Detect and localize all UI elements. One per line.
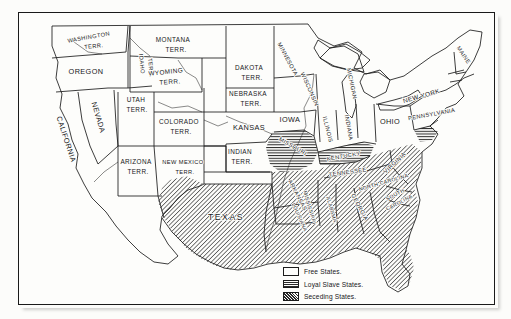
svg-text:MONTANA: MONTANA <box>156 36 191 43</box>
svg-text:ARIZONA: ARIZONA <box>120 158 152 165</box>
svg-text:OREGON: OREGON <box>69 67 104 76</box>
svg-text:TERR.: TERR. <box>175 169 194 175</box>
svg-text:DAKOTA: DAKOTA <box>235 64 264 71</box>
svg-text:TERR.: TERR. <box>231 158 252 165</box>
svg-text:TERR.: TERR. <box>241 74 262 81</box>
svg-text:IOWA: IOWA <box>280 115 301 124</box>
svg-text:TERR.: TERR. <box>127 168 148 175</box>
us-map-drawing: WASHINGTON TERR. OREGON IDAHO TERR. CALI… <box>18 12 495 305</box>
svg-text:TEXAS: TEXAS <box>208 212 244 222</box>
legend-swatch-seceding-states <box>283 292 299 301</box>
map-figure: WASHINGTON TERR. OREGON IDAHO TERR. CALI… <box>0 0 511 319</box>
legend-label-seceding-states: Seceding States. <box>304 293 356 300</box>
svg-text:MINNESOTA: MINNESOTA <box>276 41 299 76</box>
svg-text:INDIANA: INDIANA <box>344 114 354 141</box>
svg-text:TERR.: TERR. <box>159 77 181 85</box>
svg-text:NEBRASKA: NEBRASKA <box>229 90 267 97</box>
fill-missouri <box>266 130 318 172</box>
svg-text:OHIO: OHIO <box>380 117 400 126</box>
map-legend: Free States. Loyal Slave States. Secedin… <box>283 266 393 304</box>
svg-text:MAINE: MAINE <box>456 45 472 65</box>
outline-canada-border <box>52 24 308 26</box>
svg-text:PENNSYLVANIA: PENNSYLVANIA <box>408 107 456 121</box>
legend-label-free-states: Free States. <box>304 268 342 275</box>
svg-text:ILLINOIS: ILLINOIS <box>322 116 334 143</box>
svg-text:TERR.: TERR. <box>170 128 191 135</box>
svg-text:COLORADO: COLORADO <box>159 118 199 125</box>
svg-text:WASHINGTON: WASHINGTON <box>67 30 110 43</box>
legend-item-seceding-states: Seceding States. <box>283 291 393 302</box>
svg-text:TERR.: TERR. <box>165 46 186 53</box>
svg-text:UTAH: UTAH <box>127 96 146 103</box>
svg-text:NEW YORK: NEW YORK <box>402 87 441 104</box>
legend-item-free-states: Free States. <box>283 266 393 277</box>
svg-text:TERR.: TERR. <box>84 42 104 50</box>
svg-text:INDIAN: INDIAN <box>228 148 252 155</box>
legend-label-loyal-slave-states: Loyal Slave States. <box>304 281 363 288</box>
svg-text:KANSAS: KANSAS <box>233 123 265 132</box>
svg-text:IDAHO: IDAHO <box>138 54 146 75</box>
svg-text:TERR.: TERR. <box>126 106 147 113</box>
svg-text:NEVADA: NEVADA <box>90 101 107 134</box>
svg-text:CALIFORNIA: CALIFORNIA <box>55 115 78 163</box>
michigan-upper-peninsula <box>320 46 364 72</box>
legend-swatch-loyal-slave-states <box>283 280 299 289</box>
legend-swatch-free-states <box>283 267 299 276</box>
svg-text:MICHIGAN: MICHIGAN <box>346 67 358 99</box>
svg-text:TERR.: TERR. <box>240 100 261 107</box>
svg-text:NEW MEXICO: NEW MEXICO <box>162 159 203 165</box>
legend-item-loyal-slave-states: Loyal Slave States. <box>283 279 393 290</box>
